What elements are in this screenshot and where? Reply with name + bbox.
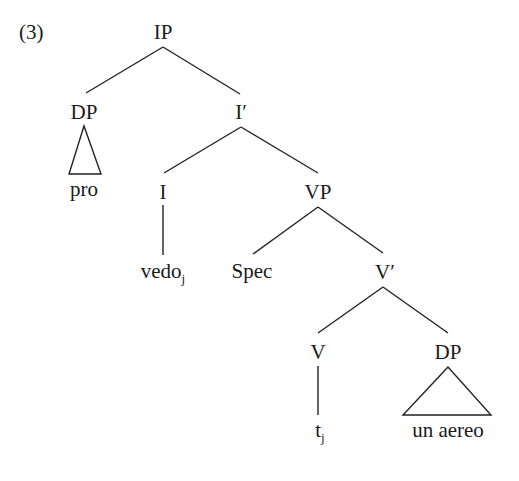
example-number: (3): [19, 20, 44, 44]
terminal-trace: tj: [315, 418, 324, 445]
node-ip: IP: [154, 20, 173, 44]
edge-vbar-v: [318, 287, 383, 333]
edge-ip-ibar: [163, 47, 240, 94]
edge-ip-dp: [86, 47, 163, 93]
node-dp-subject: DP: [71, 100, 98, 124]
terminal-vedo: vedoj: [141, 259, 185, 286]
edge-ibar-i: [164, 127, 241, 173]
terminal-pro: pro: [70, 177, 98, 201]
node-vp: VP: [305, 180, 332, 204]
v-bar-label: V: [375, 260, 390, 284]
trace-subscript: j: [320, 430, 325, 445]
node-i-bar: I′: [235, 100, 247, 124]
vedo-text: vedo: [141, 259, 182, 283]
vedo-subscript: j: [181, 271, 186, 286]
node-dp-object: DP: [435, 340, 462, 364]
edge-vbar-dp: [383, 287, 448, 333]
edge-vp-spec: [253, 207, 318, 254]
i-bar-prime: ′: [242, 100, 247, 124]
edge-ibar-vp: [241, 127, 318, 173]
syntax-tree-diagram: (3) IP DP pro I′ I vedoj VP Spec V′ V tj…: [0, 0, 519, 481]
i-bar-label: I: [235, 100, 242, 124]
node-v-bar: V′: [375, 260, 395, 284]
triangle-dp-object: [403, 367, 491, 415]
terminal-un-aereo: un aereo: [412, 418, 484, 442]
node-spec: Spec: [232, 259, 273, 283]
triangle-dp-subject: [69, 126, 101, 174]
node-v-head: V: [310, 340, 325, 364]
node-i-head: I: [160, 180, 167, 204]
v-bar-prime: ′: [390, 260, 395, 284]
edge-vp-vbar: [318, 207, 383, 253]
